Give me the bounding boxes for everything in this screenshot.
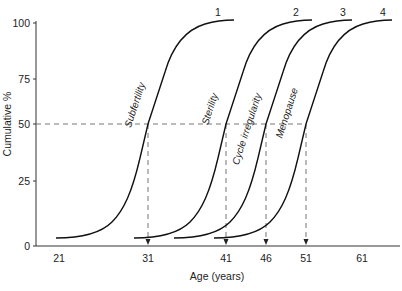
curve-3 bbox=[174, 20, 352, 238]
x-tick-label: 46 bbox=[260, 252, 272, 264]
curve-1 bbox=[56, 20, 234, 238]
drop-lines bbox=[146, 124, 309, 245]
x-tick-label: 41 bbox=[220, 252, 232, 264]
x-ticks: 213141465161 bbox=[53, 252, 368, 264]
curve-name-label: Menopause bbox=[273, 86, 300, 140]
curve-line bbox=[56, 20, 234, 238]
y-tick-label: 0 bbox=[24, 240, 30, 252]
curve-name-label: Subfertility bbox=[122, 80, 147, 129]
y-tick-label: 50 bbox=[18, 118, 30, 130]
y-tick-label: 25 bbox=[18, 175, 30, 187]
y-tick-label: 75 bbox=[18, 73, 30, 85]
axes: 1007550250 213141465161 Cumulative % Age… bbox=[1, 17, 400, 282]
arrow-down-icon bbox=[264, 239, 269, 245]
curve-number-label: 1 bbox=[215, 6, 221, 18]
arrow-down-icon bbox=[224, 239, 229, 245]
x-tick-label: 51 bbox=[300, 252, 312, 264]
curve-line bbox=[174, 20, 352, 238]
curve-number-label: 2 bbox=[293, 6, 299, 18]
y-ticks: 1007550250 bbox=[12, 17, 36, 252]
curve-name-label: Sterility bbox=[199, 91, 220, 127]
arrow-down-icon bbox=[146, 239, 151, 245]
arrow-down-icon bbox=[304, 239, 309, 245]
curves: 1Subfertility2Sterility3Cycle irregulari… bbox=[56, 6, 392, 238]
y-tick-label: 100 bbox=[12, 17, 30, 29]
y-axis-title: Cumulative % bbox=[1, 92, 13, 157]
curve-number-label: 4 bbox=[380, 6, 386, 18]
x-tick-label: 21 bbox=[53, 252, 65, 264]
x-tick-label: 61 bbox=[356, 252, 368, 264]
x-axis-title: Age (years) bbox=[190, 270, 244, 282]
curve-number-label: 3 bbox=[340, 6, 346, 18]
cumulative-age-chart: 1007550250 213141465161 Cumulative % Age… bbox=[0, 0, 402, 291]
x-tick-label: 31 bbox=[142, 252, 154, 264]
